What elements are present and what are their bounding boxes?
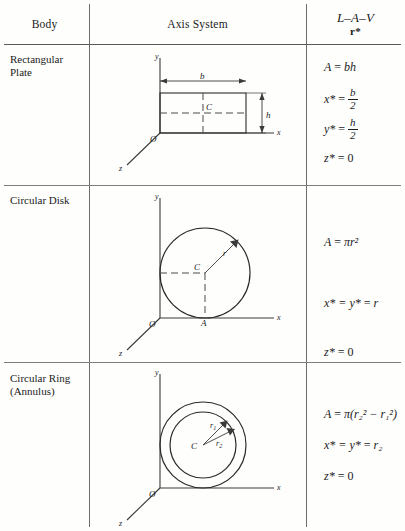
row-1-xstar-den: 2 xyxy=(348,100,358,112)
row-1-body-label: Rectangular Plate xyxy=(10,53,90,78)
svg-text:h: h xyxy=(266,110,271,120)
svg-text:x: x xyxy=(276,483,281,492)
row-2-body-line-1: Circular Disk xyxy=(10,194,70,206)
centroid-table-page: Body Axis System L–A–V r* Rectangular Pl… xyxy=(0,0,405,531)
row-1-zstar-rhs: 0 xyxy=(347,151,353,165)
header-lav-sub: r* xyxy=(306,25,405,37)
row-3-xystar-rhs: r₂ xyxy=(374,438,383,452)
header-lav-main: L–A–V xyxy=(337,10,374,25)
svg-text:y: y xyxy=(154,368,159,377)
row-2-formulas: A = πr² x* = y* = r z* = 0 xyxy=(306,190,405,360)
row-1-body-line-1: Rectangular xyxy=(10,53,63,65)
row-3-zstar-lhs: z* xyxy=(324,469,335,483)
row-1-ystar-den: 2 xyxy=(348,130,358,142)
row-1-formula-area: A = bh xyxy=(324,60,356,75)
row-3-area-rhs: π(r₂² − r₁²) xyxy=(344,407,397,421)
row-3-body-label: Circular Ring (Annulus) xyxy=(10,372,90,397)
row-1-area-rhs: bh xyxy=(344,60,356,74)
svg-text:z: z xyxy=(118,349,123,358)
svg-text:y: y xyxy=(154,192,159,201)
row-3-formula-xystar: x* = y* = r₂ xyxy=(324,438,382,453)
row-3-body-line-2: (Annulus) xyxy=(10,385,55,397)
row-3-formula-zstar: z* = 0 xyxy=(324,469,353,484)
svg-text:r: r xyxy=(223,249,227,258)
row-1-formulas: A = bh x* = b 2 y* = h 2 z* = 0 xyxy=(306,48,405,183)
row-2-area-lhs: A xyxy=(324,235,331,249)
header-body: Body xyxy=(0,18,89,30)
row-3-body-line-1: Circular Ring xyxy=(10,372,70,384)
svg-text:r2: r2 xyxy=(216,439,222,449)
svg-text:z: z xyxy=(118,519,123,528)
diagram-circular-ring-annulus: y x z O C r1 r2 xyxy=(89,366,306,531)
svg-text:O: O xyxy=(149,319,156,329)
row-1-ystar-num: h xyxy=(348,117,358,130)
svg-text:C: C xyxy=(206,102,213,112)
svg-text:A: A xyxy=(200,318,207,328)
row-3-zstar-rhs: 0 xyxy=(347,469,353,483)
svg-text:C: C xyxy=(194,262,201,272)
svg-text:O: O xyxy=(150,134,157,144)
header-axis-system: Axis System xyxy=(89,18,306,30)
row-1-formula-zstar: z* = 0 xyxy=(324,151,353,166)
diagram-circular-disk: y x z O A C r xyxy=(89,190,306,360)
row-2-xystar-rhs: r xyxy=(374,296,379,310)
rule-row-1-bottom xyxy=(4,185,401,186)
row-2-formula-xystar: x* = y* = r xyxy=(324,296,378,311)
svg-text:O: O xyxy=(149,489,156,499)
row-1-formula-ystar: y* = h 2 xyxy=(324,118,358,142)
row-2-formula-zstar: z* = 0 xyxy=(324,345,353,360)
row-2-area-rhs: πr² xyxy=(344,235,358,249)
row-1-xstar-num: b xyxy=(348,87,358,100)
rule-row-2-bottom xyxy=(4,362,401,363)
svg-text:b: b xyxy=(200,71,205,81)
row-3-formulas: A = π(r₂² − r₁²) x* = y* = r₂ z* = 0 xyxy=(306,366,405,531)
rule-header-bottom xyxy=(4,44,401,45)
row-2-zstar-rhs: 0 xyxy=(347,345,353,359)
row-1-zstar-lhs: z* xyxy=(324,151,335,165)
row-1-xstar-lhs: x* xyxy=(324,92,335,106)
svg-text:x: x xyxy=(276,128,281,137)
svg-text:C: C xyxy=(191,441,198,451)
row-3-area-lhs: A xyxy=(324,407,331,421)
svg-text:r1: r1 xyxy=(210,421,216,431)
row-1-area-lhs: A xyxy=(324,60,331,74)
row-2-xystar-lhs: x* = y* xyxy=(324,296,361,310)
svg-text:z: z xyxy=(118,164,123,173)
svg-text:y: y xyxy=(154,52,159,61)
diagram-rectangular-plate: y x z O b h C xyxy=(89,48,306,183)
row-2-zstar-lhs: z* xyxy=(324,345,335,359)
row-1-ystar-lhs: y* xyxy=(324,122,335,136)
row-3-formula-area: A = π(r₂² − r₁²) xyxy=(324,407,397,422)
row-2-formula-area: A = πr² xyxy=(324,235,358,250)
row-1-formula-xstar: x* = b 2 xyxy=(324,88,358,112)
row-3-xystar-lhs: x* = y* xyxy=(324,438,361,452)
row-1-body-line-2: Plate xyxy=(10,66,32,78)
header-lav: L–A–V r* xyxy=(306,10,405,37)
row-2-body-label: Circular Disk xyxy=(10,194,90,207)
svg-text:x: x xyxy=(276,313,281,322)
